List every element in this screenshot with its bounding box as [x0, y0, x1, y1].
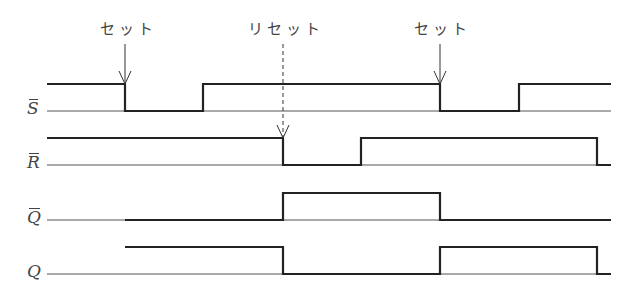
- annotation-reset: リセット: [248, 17, 324, 38]
- timing-diagram: [0, 0, 634, 306]
- overbar: [29, 208, 40, 209]
- label-s-bar: S: [27, 98, 39, 118]
- label-q: Q: [27, 261, 41, 281]
- label-r-bar: R: [27, 152, 40, 172]
- signal-r-bar: [47, 138, 611, 165]
- overbar: [29, 99, 38, 100]
- label-q-bar: Q: [27, 207, 41, 227]
- annotation-set-1: セット: [100, 17, 157, 38]
- overbar: [29, 153, 39, 154]
- signal-q-bar: [47, 193, 611, 220]
- signal-s-bar: [47, 84, 611, 111]
- set-arrow-2: [434, 44, 446, 84]
- reset-arrow: [277, 44, 289, 138]
- set-arrow-1: [119, 44, 131, 84]
- signal-q: [47, 247, 611, 274]
- annotation-set-2: セット: [414, 17, 471, 38]
